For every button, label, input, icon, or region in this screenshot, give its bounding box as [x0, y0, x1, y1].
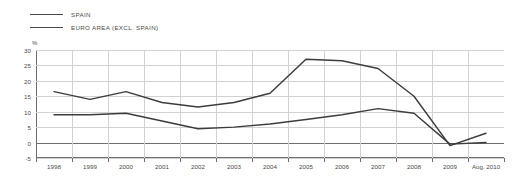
y-tick-label: 20 [24, 77, 31, 84]
x-tick-mark [432, 158, 433, 162]
chart-legend: SPAIN EURO AREA (EXCL. SPAIN) [30, 8, 158, 34]
x-tick-mark [36, 158, 37, 162]
x-tick-label: 1999 [83, 163, 97, 170]
x-tick-label: Aug. 2010 [472, 163, 500, 170]
y-tick-label: 0 [28, 139, 31, 146]
legend-item-euro-area: EURO AREA (EXCL. SPAIN) [30, 21, 158, 34]
x-tick-label: 2001 [155, 163, 169, 170]
x-tick-label: 2006 [335, 163, 349, 170]
y-tick-label: 10 [24, 108, 31, 115]
chart-container: SPAIN EURO AREA (EXCL. SPAIN) % 30252015… [0, 0, 518, 182]
y-tick-label: 5 [28, 124, 31, 131]
y-tick-label: 15 [24, 93, 31, 100]
y-tick-label: 25 [24, 62, 31, 69]
x-tick-mark [108, 158, 109, 162]
x-tick-mark [144, 158, 145, 162]
x-tick-mark [468, 158, 469, 162]
series-line-spain [54, 59, 486, 145]
x-tick-mark [252, 158, 253, 162]
x-tick-mark [216, 158, 217, 162]
x-tick-mark [288, 158, 289, 162]
x-tick-label: 2008 [407, 163, 421, 170]
y-axis-unit-label: % [32, 40, 37, 46]
x-tick-label: 2000 [119, 163, 133, 170]
x-tick-label: 2004 [263, 163, 277, 170]
series-line-euro-area-excl-spain [54, 109, 486, 144]
legend-swatch-spain [30, 14, 63, 15]
series-lines [36, 50, 504, 158]
x-tick-mark [360, 158, 361, 162]
y-tick-label: 30 [24, 47, 31, 54]
x-tick-mark [180, 158, 181, 162]
x-tick-mark [396, 158, 397, 162]
x-tick-label: 2009 [443, 163, 457, 170]
gridline-y--5 [36, 158, 504, 159]
x-tick-label: 2003 [227, 163, 241, 170]
legend-label-spain: SPAIN [71, 11, 91, 18]
y-tick-label: -5 [25, 155, 31, 162]
x-tick-label: 2007 [371, 163, 385, 170]
x-tick-label: 2002 [191, 163, 205, 170]
x-tick-mark [72, 158, 73, 162]
legend-item-spain: SPAIN [30, 8, 158, 21]
plot-area: 302520151050-5 1998199920002001200220032… [36, 50, 504, 158]
x-tick-mark [324, 158, 325, 162]
x-tick-mark [504, 158, 505, 162]
legend-swatch-euro-area [30, 27, 63, 28]
x-tick-label: 1998 [47, 163, 61, 170]
legend-label-euro-area: EURO AREA (EXCL. SPAIN) [71, 24, 158, 31]
x-tick-label: 2005 [299, 163, 313, 170]
